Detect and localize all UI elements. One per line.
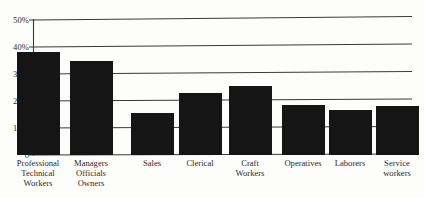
bar-operatives [282,105,325,155]
bar-laborers [329,110,372,155]
bar-sales [131,113,174,155]
bar-chart: 50% 40% 30% 20% 10% 0 Professional Techn… [0,0,424,198]
bar-craft-workers [229,86,272,155]
x-axis-category-labels: Professional Technical Workers Managers … [0,158,424,198]
bar-professional-technical-workers [17,52,60,155]
bar-managers-officials-owners [70,61,113,156]
bar-service-workers [376,106,419,155]
bar-clerical [179,93,222,155]
x-label-service-workers: Service workers [363,158,424,178]
x-label-managers-officials-owners: Managers Officials Owners [57,158,125,189]
